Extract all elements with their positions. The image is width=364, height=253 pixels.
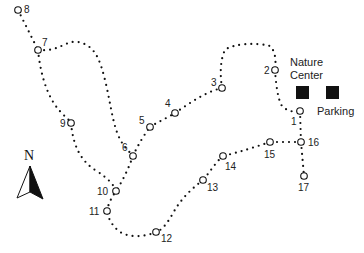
stop-label-14: 14 <box>225 161 237 172</box>
stop-label-7: 7 <box>42 37 48 48</box>
stop-marker-1[interactable] <box>297 108 304 115</box>
stop-marker-5[interactable] <box>147 124 154 131</box>
stop-label-12: 12 <box>161 233 173 244</box>
trail-1-16 <box>300 111 301 142</box>
stop-label-17: 17 <box>298 182 310 193</box>
stop-label-8: 8 <box>24 4 30 15</box>
trail-map: Nature Center Parking N 1 2 3 4 5 6 7 <box>0 0 364 253</box>
trail-6-5 <box>133 127 150 156</box>
stop-label-1: 1 <box>291 116 297 127</box>
stop-marker-6[interactable] <box>130 153 137 160</box>
trail-7-loop-east <box>38 42 133 156</box>
north-arrow-shade <box>30 166 43 199</box>
trail-9-10 <box>71 123 116 191</box>
stop-label-2: 2 <box>264 65 270 76</box>
stop-marker-14[interactable] <box>220 153 227 160</box>
parking-lot[interactable] <box>326 86 339 99</box>
stop-label-4: 4 <box>165 98 171 109</box>
stop-marker-8[interactable] <box>15 7 22 14</box>
trail-6-10 <box>116 156 133 191</box>
stop-marker-13[interactable] <box>200 177 207 184</box>
stop-marker-12[interactable] <box>153 229 160 236</box>
stop-label-9: 9 <box>60 118 66 129</box>
nature-center-label-line2: Center <box>290 69 323 81</box>
trail-4-3 <box>175 88 222 113</box>
stop-marker-16[interactable] <box>298 139 305 146</box>
stop-label-15: 15 <box>264 149 276 160</box>
trail-7-9 <box>38 50 71 123</box>
stop-marker-9[interactable] <box>68 120 75 127</box>
stop-label-10: 10 <box>97 186 109 197</box>
stop-marker-15[interactable] <box>267 139 274 146</box>
compass: N <box>17 148 43 199</box>
north-arrow-icon <box>17 166 30 198</box>
nature-center-label-line1: Nature <box>290 56 323 68</box>
trail-16-17 <box>301 142 304 176</box>
stop-marker-2[interactable] <box>272 67 279 74</box>
stop-label-13: 13 <box>207 182 219 193</box>
parking-label: Parking <box>317 105 354 117</box>
stop-marker-4[interactable] <box>172 110 179 117</box>
stop-marker-11[interactable] <box>104 208 111 215</box>
trail-8-7 <box>18 10 38 50</box>
stop-marker-17[interactable] <box>301 173 308 180</box>
stop-marker-3[interactable] <box>219 85 226 92</box>
north-label: N <box>24 148 34 163</box>
trail-13-12 <box>156 180 203 232</box>
stop-label-5: 5 <box>139 115 145 126</box>
trail-15-14 <box>223 142 270 156</box>
trail-14-13 <box>203 156 223 180</box>
stop-marker-10[interactable] <box>113 188 120 195</box>
stop-label-3: 3 <box>211 77 217 88</box>
nature-center-building[interactable] <box>296 86 309 99</box>
stop-label-11: 11 <box>89 206 100 217</box>
trail-12-11 <box>107 211 156 236</box>
stop-label-6: 6 <box>122 142 128 153</box>
stop-label-16: 16 <box>308 137 320 148</box>
trail-5-4 <box>150 113 175 127</box>
stop-marker-7[interactable] <box>35 47 42 54</box>
